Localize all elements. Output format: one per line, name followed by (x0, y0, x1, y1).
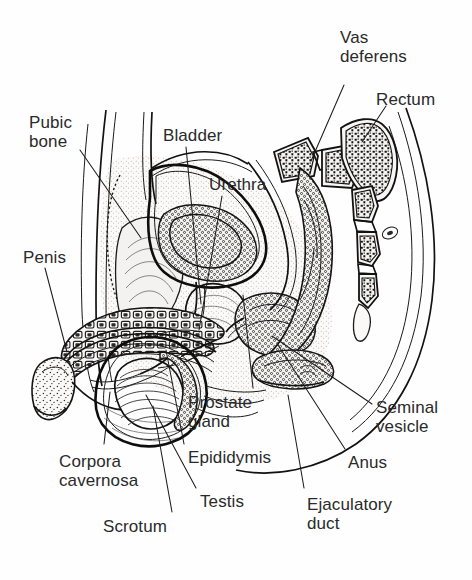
label-bladder: Bladder (163, 126, 222, 145)
label-epididymis: Epididymis (188, 448, 271, 467)
label-vas-deferens-line1: Vas (340, 28, 407, 47)
label-seminal-vesicle: Seminalvesicle (376, 398, 438, 436)
label-scrotum: Scrotum (103, 517, 167, 536)
label-corpora-cavernosa-line1: Corpora (59, 452, 138, 471)
label-seminal-vesicle-line2: vesicle (376, 417, 438, 436)
label-prostate-gland-line1: Prostate (188, 393, 252, 412)
label-epididymis-line1: Epididymis (188, 448, 271, 467)
label-rectum: Rectum (376, 90, 435, 109)
label-prostate-gland-line2: gland (188, 412, 252, 431)
label-pubic-bone-line1: Pubic (29, 113, 72, 132)
ejaculatory-duct-leader (288, 395, 304, 488)
scrotum-leader (153, 406, 172, 512)
label-anus-line1: Anus (348, 453, 387, 472)
label-seminal-vesicle-line1: Seminal (376, 398, 438, 417)
corpora-cavernosa-leader (104, 392, 110, 444)
label-prostate-gland: Prostategland (188, 393, 252, 431)
label-pubic-bone-line2: bone (29, 132, 72, 151)
label-testis: Testis (200, 492, 244, 511)
label-vas-deferens: Vasdeferens (340, 28, 407, 66)
label-penis-line1: Penis (23, 248, 66, 267)
label-corpora-cavernosa: Corporacavernosa (59, 452, 138, 490)
label-ejaculatory-duct: Ejaculatoryduct (307, 495, 392, 533)
label-vas-deferens-line2: deferens (340, 47, 407, 66)
label-testis-line1: Testis (200, 492, 244, 511)
anatomy-figure: VasdeferensRectumPubicboneBladderUrethra… (0, 0, 472, 580)
label-rectum-line1: Rectum (376, 90, 435, 109)
label-scrotum-line1: Scrotum (103, 517, 167, 536)
label-urethra-line1: Urethra (209, 175, 266, 194)
label-ejaculatory-duct-line2: duct (307, 514, 392, 533)
label-pubic-bone: Pubicbone (29, 113, 72, 151)
label-urethra: Urethra (209, 175, 266, 194)
label-bladder-line1: Bladder (163, 126, 222, 145)
label-corpora-cavernosa-line2: cavernosa (59, 471, 138, 490)
label-penis: Penis (23, 248, 66, 267)
label-anus: Anus (348, 453, 387, 472)
penis-leader (45, 268, 67, 352)
label-ejaculatory-duct-line1: Ejaculatory (307, 495, 392, 514)
